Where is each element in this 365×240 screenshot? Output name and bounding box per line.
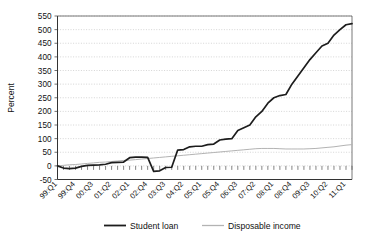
y-axis-title: Percent xyxy=(6,83,16,113)
legend-label-disposable-income: Disposable income xyxy=(228,221,301,231)
y-tick-label: 350 xyxy=(38,67,52,76)
y-tick-label: 200 xyxy=(38,107,52,116)
y-tick-label: 500 xyxy=(38,26,52,35)
y-tick-label: 50 xyxy=(42,148,52,157)
y-tick-label: 150 xyxy=(38,121,52,130)
y-tick-label: 300 xyxy=(38,80,52,89)
y-tick-label: 450 xyxy=(38,39,52,48)
y-tick-label: 550 xyxy=(38,12,52,21)
y-tick-label: 400 xyxy=(38,53,52,62)
y-tick-label: 250 xyxy=(38,94,52,103)
chart-background xyxy=(0,0,365,240)
legend-label-student-loan: Student loan xyxy=(130,221,178,231)
y-tick-label: 100 xyxy=(38,135,52,144)
chart-container: -50050100150200250300350400450500550 99:… xyxy=(0,0,365,240)
y-tick-label: 0 xyxy=(47,162,52,171)
line-chart: -50050100150200250300350400450500550 99:… xyxy=(0,0,365,240)
